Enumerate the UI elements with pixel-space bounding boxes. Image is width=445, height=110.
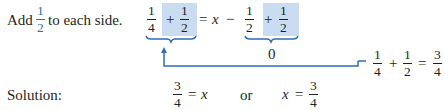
solution-form1-fraction: 3 4 <box>173 79 182 109</box>
arrow-head-icon <box>161 47 167 53</box>
arrow-path <box>164 52 358 66</box>
solution-form1-variable: x <box>201 87 208 102</box>
annotation-term-1: 1 4 <box>373 48 382 78</box>
annotation-result: 3 4 <box>433 48 442 78</box>
right-underbrace <box>245 36 298 42</box>
solution-form1-equals: = <box>188 87 196 102</box>
solution-form2-equals: = <box>295 87 303 102</box>
solution-form2-fraction: 3 4 <box>309 79 318 109</box>
annotation-equals: = <box>418 56 426 71</box>
annotation-term-2: 1 2 <box>403 48 412 78</box>
solution-connector: or <box>240 88 253 103</box>
annotation-plus: + <box>389 56 397 71</box>
solution-form2-variable: x <box>282 87 289 102</box>
left-underbrace <box>146 36 196 42</box>
solution-label: Solution: <box>7 88 62 103</box>
